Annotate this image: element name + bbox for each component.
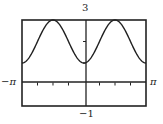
y-min-label: −1 [79,109,94,119]
x-ticks [37,83,130,86]
y-max-label: 3 [82,3,88,13]
x-min-label: −π [1,77,16,87]
plot-area [0,0,163,124]
x-max-label: π [150,77,157,87]
